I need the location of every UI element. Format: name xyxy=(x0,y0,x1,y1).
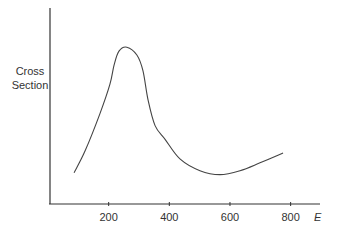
x-axis-label: E xyxy=(314,211,321,223)
y-axis-label-line-2: Section xyxy=(8,78,52,92)
y-axis-label-line-1: Cross xyxy=(8,64,52,78)
x-tick-label: 400 xyxy=(160,211,178,223)
chart-canvas xyxy=(0,0,337,229)
y-axis-label: Cross Section xyxy=(8,64,52,92)
x-tick-label: 800 xyxy=(281,211,299,223)
cross-section-curve xyxy=(74,47,283,175)
x-tick-label: 200 xyxy=(99,211,117,223)
x-tick-label: 600 xyxy=(221,211,239,223)
